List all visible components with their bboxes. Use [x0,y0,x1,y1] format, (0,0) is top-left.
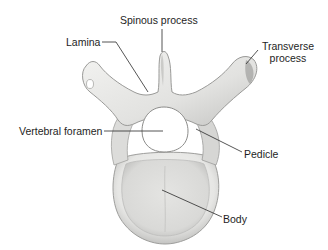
label-transverse-line2: process [258,52,318,64]
label-transverse-process: Transverse process [258,40,318,64]
label-vertebral-foramen: Vertebral foramen [19,125,102,137]
label-lamina: Lamina [66,36,100,48]
label-pedicle: Pedicle [244,148,278,160]
label-body: Body [223,213,247,225]
label-transverse-line1: Transverse [258,40,318,52]
vertebra-diagram: Spinous process Lamina Transverse proces… [0,0,328,250]
vertebral-foramen-shape [142,107,188,152]
label-spinous-process: Spinous process [120,14,198,26]
